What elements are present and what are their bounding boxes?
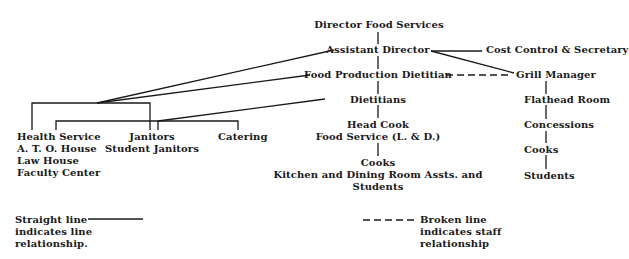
node-grill-manager: Grill Manager <box>516 69 596 81</box>
node-label: Students <box>273 181 482 193</box>
node-cooks-grill: Cooks <box>524 144 558 156</box>
node-label: Catering <box>218 131 268 142</box>
node-label: Cooks <box>273 157 482 169</box>
bracket-service-catering <box>56 121 238 130</box>
node-cooks-main: Cooks Kitchen and Dining Room Assts. and… <box>273 157 482 193</box>
node-label: Cost Control & Secretary <box>486 44 629 55</box>
node-label: Dietitians <box>350 94 406 105</box>
node-label: Grill Manager <box>516 69 596 80</box>
node-label: Student Janitors <box>105 143 199 155</box>
node-label: Students <box>524 170 575 181</box>
node-label: Head Cook <box>316 119 441 131</box>
node-janitors: Janitors Student Janitors <box>105 131 199 155</box>
node-students-grill: Students <box>524 170 575 182</box>
node-label: Assistant Director <box>326 44 429 55</box>
node-label: Flathead Room <box>524 94 610 105</box>
node-director: Director Food Services <box>314 19 443 31</box>
legend-straight: Straight line indicates line relationshi… <box>15 214 92 250</box>
node-label: Concessions <box>524 119 594 130</box>
legend-broken: Broken line indicates staff relationship <box>420 214 501 250</box>
node-flathead-room: Flathead Room <box>524 94 610 106</box>
node-label: Food Service (L. & D.) <box>316 131 441 143</box>
node-label: A. T. O. House <box>17 143 101 155</box>
node-label: Health Service <box>17 131 101 143</box>
legend-text: Broken line <box>420 214 501 226</box>
node-label: Cooks <box>524 144 558 155</box>
node-label: Janitors <box>105 131 199 143</box>
node-head-cook: Head Cook Food Service (L. & D.) <box>316 119 441 143</box>
legend-text: indicates line <box>15 226 92 238</box>
bracket-health-janitors <box>32 103 150 130</box>
node-catering: Catering <box>218 131 268 143</box>
node-label: Law House <box>17 155 101 167</box>
line-dietitians-lower-group <box>158 99 325 121</box>
legend-text: Straight line <box>15 214 92 226</box>
node-assistant-director: Assistant Director <box>326 44 429 56</box>
node-health-service: Health Service A. T. O. House Law House … <box>17 131 101 179</box>
node-label: Kitchen and Dining Room Assts. and <box>273 169 482 181</box>
node-label: Faculty Center <box>17 167 101 179</box>
node-label: Food Production Dietitian <box>304 69 452 80</box>
node-dietitians: Dietitians <box>350 94 406 106</box>
node-concessions: Concessions <box>524 119 594 131</box>
node-label: Director Food Services <box>314 19 443 30</box>
legend-text: relationship <box>420 238 501 250</box>
node-cost-control: Cost Control & Secretary <box>486 44 629 56</box>
legend-text: indicates staff <box>420 226 501 238</box>
node-food-production-dietitian: Food Production Dietitian <box>304 69 452 81</box>
legend-text: relationship. <box>15 238 92 250</box>
